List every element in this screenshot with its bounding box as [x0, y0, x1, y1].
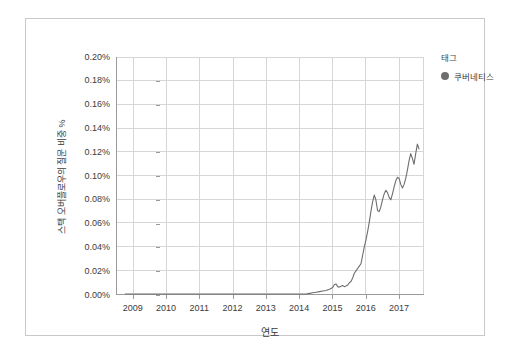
x-tick-label: 2014: [289, 303, 309, 313]
y-tick-label: 0.20%: [66, 53, 110, 62]
y-tick-label: 0.18%: [66, 76, 110, 85]
y-tick-label: 0.14%: [66, 124, 110, 133]
x-tick-label: 2013: [256, 303, 276, 313]
x-tick-mark: [266, 295, 267, 299]
y-axis-tick-labels: 0.00%0.02%0.04%0.06%0.08%0.10%0.12%0.14%…: [66, 57, 110, 295]
x-tick-mark: [133, 295, 134, 299]
legend-title: 태그: [441, 51, 507, 63]
y-tick-label: 0.10%: [66, 172, 110, 181]
legend-marker-icon: [441, 72, 449, 80]
x-tick-label: 2016: [356, 303, 376, 313]
x-tick-label: 2015: [322, 303, 342, 313]
legend-item-label: 쿠버네티스: [454, 70, 494, 82]
legend-entries: 쿠버네티스: [441, 70, 507, 82]
x-tick-mark: [399, 295, 400, 299]
x-tick-mark: [233, 295, 234, 299]
legend-item[interactable]: 쿠버네티스: [441, 70, 507, 82]
x-tick-mark: [332, 295, 333, 299]
x-tick-label: 2017: [389, 303, 409, 313]
y-tick-label: 0.06%: [66, 219, 110, 228]
x-tick-label: 2012: [223, 303, 243, 313]
x-tick-label: 2011: [190, 303, 209, 313]
y-tick-label: 0.04%: [66, 243, 110, 252]
series-line-kubernetes: [125, 144, 419, 294]
y-tick-label: 0.16%: [66, 100, 110, 109]
x-axis-tick-labels: 200920102011201220132014201520162017: [116, 295, 424, 317]
x-tick-label: 2009: [123, 303, 143, 313]
x-tick-label: 2010: [156, 303, 176, 313]
chart-page: 스택 오버플로우의 질문 비중 % 0.00%0.02%0.04%0.06%0.…: [0, 0, 509, 353]
x-tick-mark: [299, 295, 300, 299]
y-tick-label: 0.00%: [66, 291, 110, 300]
chart-card: 스택 오버플로우의 질문 비중 % 0.00%0.02%0.04%0.06%0.…: [25, 18, 485, 336]
data-series-layer: [117, 57, 424, 294]
x-tick-mark: [166, 295, 167, 299]
plot-area: [116, 57, 424, 295]
y-tick-label: 0.08%: [66, 195, 110, 204]
x-tick-mark: [366, 295, 367, 299]
y-tick-label: 0.02%: [66, 267, 110, 276]
y-tick-label: 0.12%: [66, 148, 110, 157]
legend: 태그 쿠버네티스: [441, 51, 507, 82]
x-axis-title: 연도: [116, 324, 424, 339]
x-tick-mark: [199, 295, 200, 299]
